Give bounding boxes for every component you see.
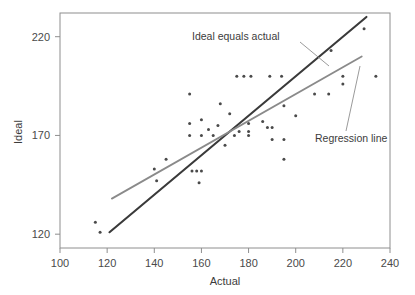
data-point: [363, 27, 366, 30]
data-point: [247, 122, 250, 125]
annotation-label: Ideal equals actual: [192, 30, 280, 42]
y-axis-title: Ideal: [12, 120, 24, 144]
data-point: [207, 128, 210, 131]
x-tick-label: 220: [334, 257, 352, 269]
x-tick-label: 120: [98, 257, 116, 269]
data-points: [94, 27, 378, 233]
data-point: [99, 231, 102, 234]
data-point: [294, 114, 297, 117]
x-tick-label: 140: [145, 257, 163, 269]
data-point: [271, 138, 274, 141]
data-point: [212, 134, 215, 137]
data-point: [233, 134, 236, 137]
x-tick-label: 100: [51, 257, 69, 269]
x-axis-tick-labels: 100120140160180200220240: [51, 257, 399, 269]
data-point: [266, 126, 269, 129]
plot-frame: [60, 13, 390, 248]
data-point: [188, 134, 191, 137]
y-tick-label: 220: [32, 31, 50, 43]
data-point: [247, 134, 250, 137]
x-axis-ticks: [60, 248, 390, 253]
data-point: [341, 75, 344, 78]
trend-lines: [110, 17, 367, 232]
data-point: [219, 102, 222, 105]
data-point: [330, 49, 333, 52]
data-point: [374, 75, 377, 78]
y-axis-ticks: [55, 37, 60, 234]
data-point: [224, 144, 227, 147]
data-point: [238, 130, 241, 133]
y-tick-label: 170: [32, 129, 50, 141]
trend-line: [112, 56, 362, 198]
data-point: [216, 124, 219, 127]
annotation-leader-line: [346, 66, 360, 131]
data-point: [247, 130, 250, 133]
annotations: Ideal equals actualRegression line: [192, 30, 388, 144]
data-point: [188, 92, 191, 95]
y-tick-label: 120: [32, 228, 50, 240]
data-point: [282, 138, 285, 141]
data-point: [268, 75, 271, 78]
data-point: [313, 92, 316, 95]
data-point: [261, 120, 264, 123]
data-point: [200, 134, 203, 137]
data-point: [155, 179, 158, 182]
x-tick-label: 180: [239, 257, 257, 269]
plot-border: [60, 13, 390, 248]
data-point: [249, 75, 252, 78]
data-point: [165, 158, 168, 161]
x-tick-label: 200: [287, 257, 305, 269]
data-point: [228, 112, 231, 115]
data-point: [327, 92, 330, 95]
x-tick-label: 160: [192, 257, 210, 269]
scatter-chart-figure: 100120140160180200220240 120170220 Ideal…: [0, 0, 415, 295]
data-point: [235, 75, 238, 78]
data-point: [198, 181, 201, 184]
data-point: [282, 158, 285, 161]
x-tick-label: 240: [381, 257, 399, 269]
data-point: [195, 169, 198, 172]
data-point: [200, 118, 203, 121]
data-point: [341, 83, 344, 86]
plot-canvas: 100120140160180200220240 120170220 Ideal…: [0, 0, 415, 295]
data-point: [280, 75, 283, 78]
data-point: [188, 122, 191, 125]
trend-line: [110, 17, 367, 232]
data-point: [153, 168, 156, 171]
data-point: [191, 169, 194, 172]
data-point: [200, 169, 203, 172]
data-point: [94, 221, 97, 224]
data-point: [271, 126, 274, 129]
data-point: [282, 104, 285, 107]
annotation-leader-line: [300, 42, 329, 66]
data-point: [242, 75, 245, 78]
x-axis-title: Actual: [210, 275, 241, 287]
annotation-label: Regression line: [315, 132, 388, 144]
y-axis-tick-labels: 120170220: [32, 31, 50, 240]
